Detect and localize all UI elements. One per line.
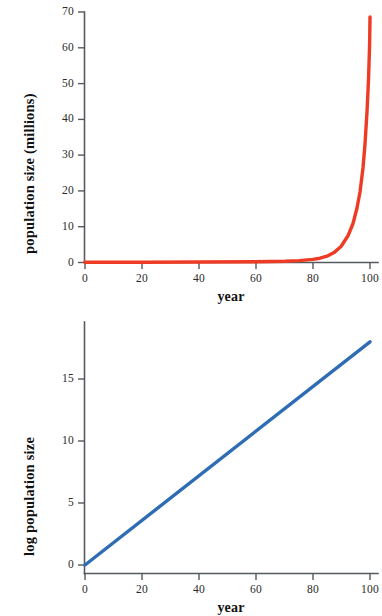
y-tick-label: 50 — [56, 78, 74, 90]
x-axis-title: year — [217, 601, 244, 615]
x-tick-label: 0 — [82, 273, 88, 285]
x-tick-label: 20 — [136, 273, 148, 285]
x-tick-label: 100 — [361, 584, 379, 596]
y-tick-label: 70 — [56, 6, 74, 18]
x-tick-label: 20 — [136, 584, 148, 596]
log-linear-line — [85, 342, 370, 565]
y-tick-label: 0 — [56, 257, 74, 269]
x-tick-label: 80 — [307, 584, 319, 596]
x-tick-label: 60 — [250, 584, 262, 596]
y-tick-label: 10 — [56, 221, 74, 233]
x-tick-label: 100 — [361, 273, 379, 285]
x-axis-title: year — [217, 290, 244, 304]
y-tick-label: 60 — [56, 42, 74, 54]
y-tick-label: 15 — [56, 373, 74, 385]
x-tick-label: 0 — [82, 584, 88, 596]
y-tick-label: 10 — [56, 435, 74, 447]
x-tick-label: 60 — [250, 273, 262, 285]
exponential-growth-figure: 0 10 20 30 40 50 60 70 0 20 40 60 80 100… — [0, 0, 382, 616]
y-tick-label: 40 — [56, 114, 74, 126]
y-tick-label: 0 — [56, 559, 74, 571]
x-tick-label: 80 — [307, 273, 319, 285]
x-tick-label: 40 — [193, 273, 205, 285]
y-tick-label: 20 — [56, 185, 74, 197]
linear-growth-panel: 0 10 20 30 40 50 60 70 0 20 40 60 80 100… — [0, 0, 382, 308]
y-tick-marks — [78, 379, 85, 565]
y-tick-label: 5 — [56, 497, 74, 509]
log-growth-panel: 0 5 10 15 0 20 40 60 80 100 log populati… — [0, 308, 382, 616]
x-tick-label: 40 — [193, 584, 205, 596]
exponential-curve — [85, 17, 370, 262]
y-tick-marks — [78, 12, 85, 263]
y-axis-title: population size (millions) — [22, 93, 37, 254]
x-tick-marks — [85, 574, 370, 581]
y-axis-title: log population size — [22, 437, 37, 556]
y-tick-label: 30 — [56, 149, 74, 161]
